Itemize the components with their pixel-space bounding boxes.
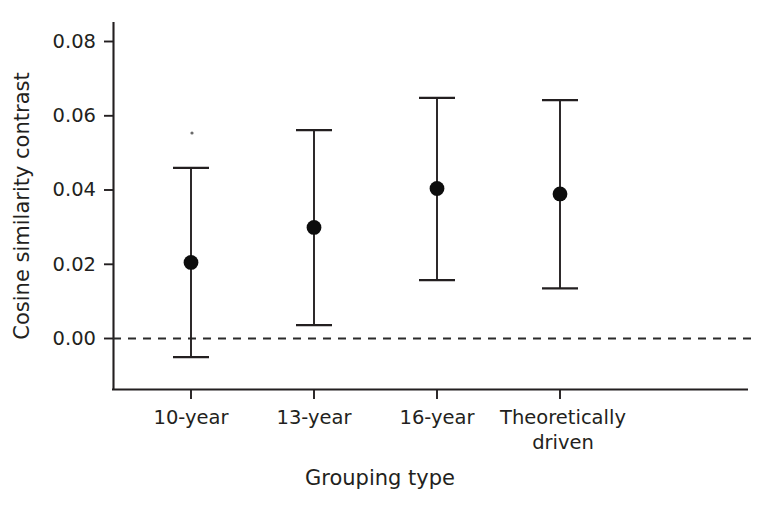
x-axis-ticks [191,390,560,399]
figure-container: 0.08 0.06 0.04 0.02 0.00 Cosine similari… [0,0,768,505]
y-axis-ticks [104,42,113,339]
y-tick-label-4: 0.08 [53,30,96,53]
datapoint-group-theoretically-driven[interactable] [542,100,578,288]
error-bar-chart: 0.08 0.06 0.04 0.02 0.00 Cosine similari… [0,0,768,505]
x-tick-label-2: 16-year [399,406,475,429]
x-axis-title: Grouping type [305,466,455,490]
x-tick-label-3-line-2: driven [532,431,594,454]
y-tick-label-2: 0.04 [53,178,96,201]
x-tick-label-0: 10-year [153,406,229,429]
scan-artifact-dot [190,131,193,134]
datapoint-group-13-year[interactable] [296,130,332,325]
y-tick-label-0: 0.00 [53,327,96,350]
data-point-marker-1[interactable] [184,255,199,270]
data-point-marker-2[interactable] [307,220,322,235]
data-point-marker-3[interactable] [430,181,445,196]
y-tick-label-3: 0.06 [53,104,96,127]
x-tick-label-1: 13-year [276,406,352,429]
datapoint-group-10-year[interactable] [173,131,209,357]
y-axis-title: Cosine similarity contrast [10,72,34,339]
data-point-marker-4[interactable] [553,187,568,202]
y-tick-label-1: 0.02 [53,253,96,276]
x-tick-label-3-line-1: Theoretically [499,406,626,429]
datapoint-group-16-year[interactable] [419,98,455,280]
